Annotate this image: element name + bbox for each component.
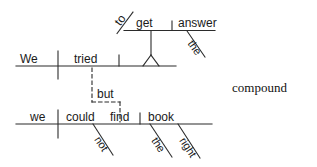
word-could: could (66, 111, 95, 123)
word-get: get (136, 17, 153, 29)
compound-annotation-label: compound (232, 81, 287, 94)
infinitive-pedestal-right-leg (151, 55, 159, 66)
word-book: book (148, 111, 174, 123)
word-tried: tried (74, 53, 97, 65)
word-we-lower: we (30, 111, 45, 123)
word-find: find (110, 111, 129, 123)
word-we-upper: We (20, 53, 38, 65)
word-but: but (97, 88, 114, 100)
word-answer: answer (178, 17, 217, 29)
sentence-diagram-canvas: to get answer the We tried but we could … (0, 0, 317, 167)
infinitive-pedestal-left-leg (143, 55, 151, 66)
